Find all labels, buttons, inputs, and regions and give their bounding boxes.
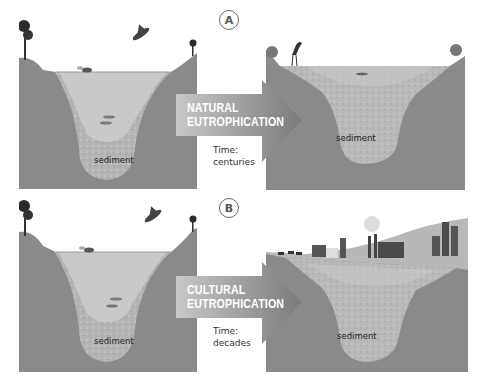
farm-barn-icon	[312, 238, 346, 258]
row-a-time: Time: centuries	[213, 144, 255, 168]
row-b-after-sediment-label: sediment	[337, 331, 377, 341]
row-a-after-sediment-label: sediment	[336, 133, 376, 143]
heron-icon	[292, 42, 302, 66]
row-b-process-title: CULTURAL EUTROPHICATION	[187, 283, 284, 311]
fish-icon	[356, 73, 368, 76]
tree-icon	[19, 200, 33, 236]
row-b-process-line1: CULTURAL	[187, 283, 284, 297]
row-b-process-line2: EUTROPHICATION	[187, 297, 284, 311]
row-b-badge: B	[219, 198, 239, 218]
row-a-badge: A	[219, 10, 239, 30]
row-a-process-line2: EUTROPHICATION	[187, 115, 284, 129]
eagle-icon	[128, 21, 151, 42]
row-a-time-label: Time:	[213, 144, 255, 156]
row-a-process-line1: NATURAL	[187, 101, 284, 115]
row-a-before-sediment-label: sediment	[94, 155, 134, 165]
row-b-time-value: decades	[213, 337, 251, 349]
row-b-before-lake	[19, 200, 197, 372]
tree-icon	[19, 20, 33, 60]
row-a-time-value: centuries	[213, 156, 255, 168]
row-b-before-sediment-label: sediment	[94, 336, 134, 346]
eagle-icon	[140, 203, 163, 224]
row-b-time-label: Time:	[213, 325, 251, 337]
row-a-process-title: NATURAL EUTROPHICATION	[187, 101, 284, 129]
row-b-time: Time: decades	[213, 325, 251, 349]
